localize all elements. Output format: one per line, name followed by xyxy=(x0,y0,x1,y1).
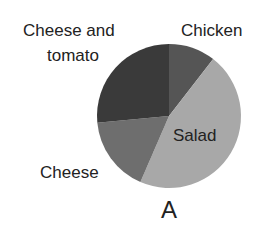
label-cheese: Cheese xyxy=(40,164,99,182)
pie-slice-cheese-and-tomato xyxy=(97,44,169,123)
label-cheese-and-tomato-line2: tomato xyxy=(47,47,99,65)
label-cheese-and-tomato-line1: Cheese and xyxy=(23,22,115,40)
chart-title: A xyxy=(161,198,177,222)
pie-slices xyxy=(97,44,241,188)
label-salad: Salad xyxy=(173,127,216,145)
label-chicken: Chicken xyxy=(181,22,242,40)
